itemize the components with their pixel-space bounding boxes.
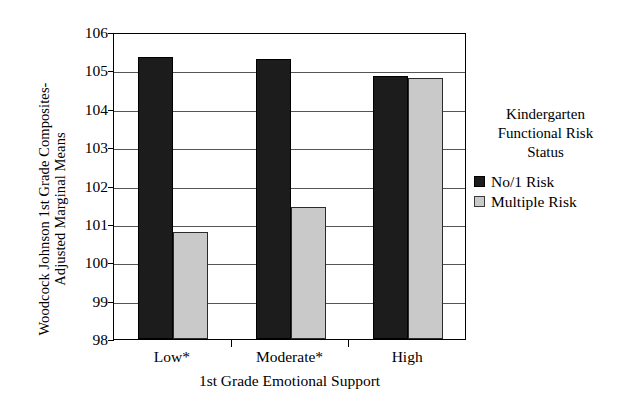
y-axis-tick-mark	[108, 148, 114, 149]
y-axis-tick-label: 98	[70, 332, 108, 348]
plot-area	[113, 33, 466, 340]
legend-items: No/1 RiskMultiple Risk	[470, 172, 621, 212]
legend: Kindergarten Functional Risk Status No/1…	[470, 105, 621, 212]
y-axis-tick-mark	[108, 110, 114, 111]
legend-item: No/1 Risk	[474, 172, 621, 192]
y-axis-title-line-1: Woodcock Johnson 1st Grade Composites-	[36, 82, 52, 335]
y-axis-tick-mark	[108, 187, 114, 188]
legend-title-line-3: Status	[470, 143, 621, 162]
y-axis-tick-mark	[108, 33, 114, 34]
y-axis-tick-mark	[108, 302, 114, 303]
legend-swatch-icon	[474, 176, 485, 187]
legend-title-line-1: Kindergarten	[470, 105, 621, 124]
y-axis-tick-mark	[108, 225, 114, 226]
legend-swatch-icon	[474, 196, 485, 207]
x-axis-category-label: High	[392, 348, 423, 366]
y-axis-tick-mark	[108, 71, 114, 72]
bar-chart: Woodcock Johnson 1st Grade Composites- A…	[0, 0, 621, 409]
y-axis-tick-label: 104	[70, 102, 108, 118]
y-axis-tick-label: 105	[70, 64, 108, 80]
bar	[138, 57, 173, 339]
bar	[408, 78, 443, 339]
bar	[291, 207, 326, 339]
y-axis-tick-label: 101	[70, 217, 108, 233]
bar	[256, 59, 291, 339]
legend-title: Kindergarten Functional Risk Status	[470, 105, 621, 163]
y-axis-tick-mark	[108, 263, 114, 264]
x-axis-category-label: Moderate*	[256, 348, 323, 366]
y-axis-tick-label: 100	[70, 256, 108, 272]
y-axis-tick-mark	[108, 340, 114, 341]
y-axis-tick-label: 106	[70, 25, 108, 41]
x-axis-tick-mark	[348, 340, 349, 347]
legend-item: Multiple Risk	[474, 192, 621, 212]
y-axis-tick-label: 102	[70, 179, 108, 195]
legend-item-label: No/1 Risk	[491, 172, 554, 192]
x-axis-category-label: Low*	[154, 348, 190, 366]
y-axis-tick-labels: 9899100101102103104105106	[62, 0, 108, 409]
legend-item-label: Multiple Risk	[491, 192, 577, 212]
x-axis-tick-mark	[231, 340, 232, 347]
y-axis-tick-label: 99	[70, 294, 108, 310]
y-axis-tick-label: 103	[70, 140, 108, 156]
legend-title-line-2: Functional Risk	[470, 124, 621, 143]
bar	[173, 232, 208, 339]
bar	[373, 76, 408, 339]
x-axis-title: 1st Grade Emotional Support	[113, 372, 466, 390]
